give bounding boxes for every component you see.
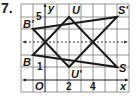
y-tick-1: 1 [37, 61, 43, 72]
point-label-B-prime: B' [23, 18, 34, 30]
origin-label: O [35, 80, 44, 92]
dashed-arrow-left-icon [22, 41, 26, 44]
point-label-U: U [72, 4, 81, 16]
point-label-S: S [119, 62, 127, 74]
dashed-arrow-right-icon [124, 41, 128, 44]
y-axis-label: y [47, 2, 55, 14]
point-label-U-prime: U' [71, 68, 82, 80]
point-label-B: B [23, 56, 31, 68]
x-axis-arrow-left-icon [22, 79, 26, 82]
coordinate-diagram: y 5 1 O 2 4 x U S' B' B U' S [0, 0, 136, 104]
reflection-line [22, 41, 128, 44]
x-tick-4: 4 [90, 81, 96, 92]
x-axis-label: x [119, 80, 127, 92]
y-tick-5: 5 [36, 11, 42, 22]
point-label-S-prime: S' [118, 4, 128, 16]
x-tick-2: 2 [66, 81, 72, 92]
